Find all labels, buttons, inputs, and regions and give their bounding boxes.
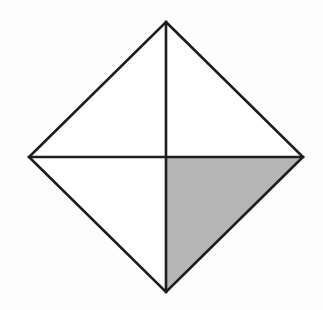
- diamond-diagram: [0, 0, 323, 310]
- figure-canvas: [0, 0, 323, 310]
